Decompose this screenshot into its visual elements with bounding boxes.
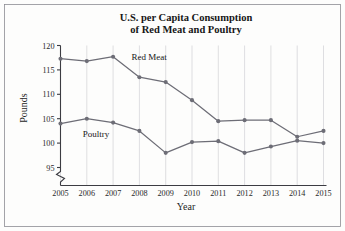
data-point [295,135,299,139]
data-point [58,57,62,61]
x-tick-label: 2010 [184,189,200,198]
x-tick-label: 2011 [210,189,226,198]
x-axis-title: Year [177,201,196,212]
data-point [269,144,273,148]
x-tick-label: 2013 [263,189,279,198]
y-axis-ticks: 95100105110115120 [42,42,60,173]
gridlines [61,46,324,186]
data-point [269,118,273,122]
data-point [190,140,194,144]
x-tick-label: 2012 [236,189,252,198]
data-point [243,118,247,122]
chart-title-line2: of Red Meat and Poultry [130,24,242,35]
data-point [295,139,299,143]
x-tick-label: 2007 [105,189,121,198]
series-annotation-red-meat: Red Meat [132,52,168,62]
data-point [190,98,194,102]
data-point [164,151,168,155]
data-point [85,117,89,121]
data-point [321,129,325,133]
data-point [85,59,89,63]
data-point [164,80,168,84]
x-tick-label: 2009 [158,189,174,198]
data-point [111,55,115,59]
data-point [137,75,141,79]
chart-figure: U.S. per Capita Consumptionof Red Meat a… [0,0,345,231]
x-tick-label: 2005 [52,189,68,198]
data-point [321,141,325,145]
x-tick-label: 2006 [79,189,95,198]
x-tick-label: 2014 [289,189,305,198]
x-axis-ticks: 2005200620072008200920102011201220132014… [52,189,331,198]
data-point [243,151,247,155]
x-tick-label: 2008 [131,189,147,198]
y-tick-label: 120 [42,42,54,51]
data-point [216,119,220,123]
y-tick-label: 115 [43,66,55,75]
y-axis-title: Pounds [18,93,29,123]
y-tick-label: 110 [43,90,55,99]
line-chart-canvas: U.S. per Capita Consumptionof Red Meat a… [0,0,345,231]
y-tick-label: 95 [46,164,54,173]
x-tick-label: 2015 [315,189,331,198]
series-annotation-poultry: Poultry [83,129,110,139]
data-point [137,129,141,133]
y-axis-with-break [57,46,65,186]
data-point [58,122,62,126]
chart-title-line1: U.S. per Capita Consumption [120,12,253,23]
data-point [216,139,220,143]
y-tick-label: 105 [42,115,54,124]
y-tick-label: 100 [42,139,54,148]
data-point [111,121,115,125]
